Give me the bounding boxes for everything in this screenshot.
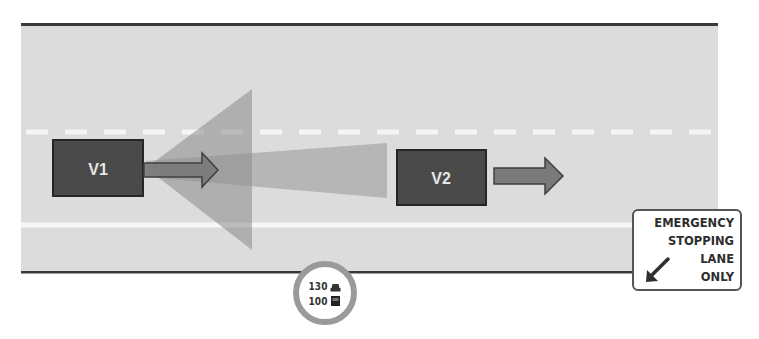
emergency-sign-line-1: EMERGENCY [654, 216, 734, 230]
emergency-sign-line-2: STOPPING [668, 234, 734, 248]
vehicle-v2: V2 [397, 150, 486, 205]
truck-icon [331, 296, 340, 306]
emergency-sign-line-4: ONLY [701, 270, 735, 284]
vehicle-v2-label: V2 [431, 170, 451, 187]
emergency-sign-line-3: LANE [700, 252, 734, 266]
speed-limit-truck: 100 [309, 296, 328, 307]
road-top-edge [21, 23, 718, 26]
speed-limit-sign: 130 100 [296, 264, 354, 322]
speed-limit-car: 130 [309, 281, 328, 292]
vehicle-v1: V1 [53, 140, 143, 196]
vehicle-v1-label: V1 [88, 161, 108, 178]
emergency-lane-sign: EMERGENCY STOPPING LANE ONLY [633, 210, 741, 290]
road-scene: V1 V2 130 100 EMERGENCY STOPPING LANE ON… [0, 0, 759, 339]
